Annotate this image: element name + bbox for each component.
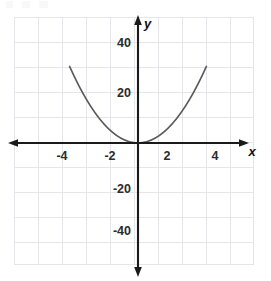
y-tick-label-20: 20 [117, 86, 131, 100]
x-tick-label-neg4: -4 [56, 149, 67, 163]
x-axis-arrow-left [8, 139, 18, 147]
y-axis-arrow-bottom [134, 267, 142, 277]
graph-canvas: 40 20 -20 -40 -4 -2 2 4 y x [0, 0, 271, 281]
y-tick-label-neg20: -20 [113, 182, 131, 196]
x-tick-label-2: 2 [164, 149, 171, 163]
coordinate-plane-figure: 40 20 -20 -40 -4 -2 2 4 y x [0, 0, 271, 281]
x-tick-label-4: 4 [212, 149, 219, 163]
x-axis-label: x [247, 144, 256, 159]
y-tick-label-neg40: -40 [113, 224, 131, 238]
y-axis-label: y [143, 16, 152, 31]
y-tick-label-40: 40 [117, 36, 131, 50]
x-tick-label-neg2: -2 [104, 149, 115, 163]
